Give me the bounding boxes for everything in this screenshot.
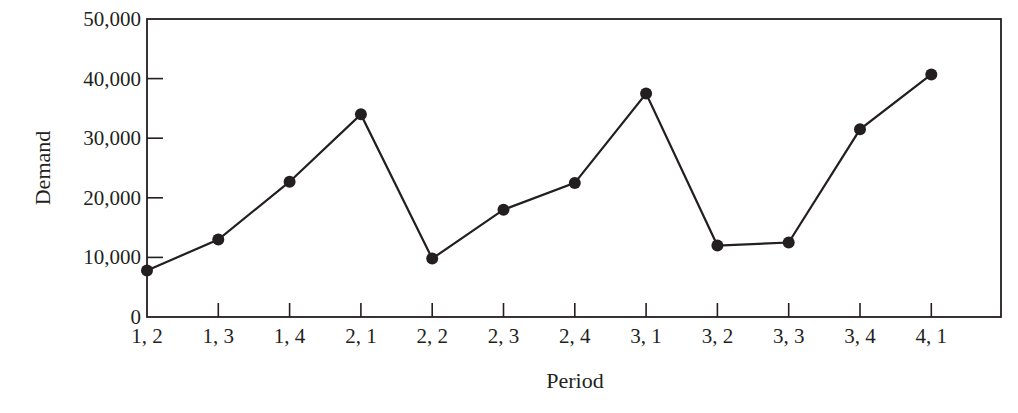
y-tick-label: 20,000 [83,186,141,210]
plot-frame [147,19,1001,317]
data-point-marker [498,204,510,216]
x-axis: 1, 21, 31, 42, 12, 22, 32, 43, 13, 23, 3… [131,303,947,348]
data-point-marker [640,88,652,100]
data-point-marker [925,68,937,80]
y-axis-title: Demand [30,131,55,206]
y-tick-label: 30,000 [83,126,141,150]
x-tick-label: 4, 1 [916,324,948,348]
data-series [141,68,937,276]
y-axis: 010,00020,00030,00040,00050,000 [83,7,163,329]
y-tick-label: 50,000 [83,7,141,31]
x-tick-label: 1, 2 [131,324,163,348]
x-tick-label: 3, 1 [630,324,662,348]
x-tick-label: 1, 3 [203,324,235,348]
data-point-marker [355,108,367,120]
data-point-marker [711,239,723,251]
data-point-marker [854,123,866,135]
line-chart: 010,00020,00030,00040,00050,000 1, 21, 3… [0,0,1018,413]
y-tick-label: 40,000 [83,67,141,91]
x-tick-label: 2, 4 [559,324,591,348]
x-tick-label: 2, 1 [345,324,377,348]
series-line [147,74,931,270]
data-point-marker [141,265,153,277]
data-point-marker [783,237,795,249]
y-tick-label: 10,000 [83,245,141,269]
x-tick-label: 3, 2 [702,324,734,348]
x-tick-label: 1, 4 [274,324,306,348]
data-point-marker [569,177,581,189]
data-point-marker [212,234,224,246]
x-axis-title: Period [546,368,603,393]
data-point-marker [426,253,438,265]
x-tick-label: 2, 2 [416,324,448,348]
data-point-marker [284,176,296,188]
x-tick-label: 3, 4 [844,324,876,348]
x-tick-label: 3, 3 [773,324,805,348]
x-tick-label: 2, 3 [488,324,520,348]
plot-border [147,19,1001,317]
